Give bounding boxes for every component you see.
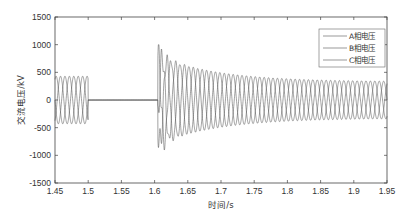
x-tick-label: 1.65 bbox=[180, 186, 197, 196]
x-tick-label: 1.55 bbox=[113, 186, 130, 196]
x-tick-label: 1.8 bbox=[281, 186, 293, 196]
voltage-chart: 1.451.51.551.61.651.71.751.81.851.91.95 … bbox=[0, 0, 411, 219]
y-axis-label: 交流电压/kV bbox=[16, 75, 26, 125]
x-tick-label: 1.7 bbox=[215, 186, 227, 196]
legend-label-c: C相电压 bbox=[349, 55, 376, 65]
x-tick-label: 1.6 bbox=[149, 186, 161, 196]
legend: A相电压 B相电压 C相电压 bbox=[319, 29, 385, 67]
x-tick-label: 1.75 bbox=[246, 186, 263, 196]
x-tick-label: 1.85 bbox=[312, 186, 329, 196]
y-tick-label: -1500 bbox=[29, 178, 51, 188]
y-tick-label: 0 bbox=[46, 95, 51, 105]
y-tick-label: -1000 bbox=[29, 150, 51, 160]
x-tick-label: 1.5 bbox=[82, 186, 94, 196]
y-tick-label: 500 bbox=[37, 67, 51, 77]
y-tick-label: -500 bbox=[34, 123, 51, 133]
x-tick-label: 1.9 bbox=[348, 186, 360, 196]
x-axis-label: 时间/s bbox=[208, 200, 234, 210]
x-tick-label: 1.95 bbox=[379, 186, 396, 196]
y-tick-label: 1500 bbox=[32, 12, 51, 22]
legend-label-b: B相电压 bbox=[349, 43, 376, 53]
legend-label-a: A相电压 bbox=[349, 31, 376, 41]
y-tick-label: 1000 bbox=[32, 40, 51, 50]
